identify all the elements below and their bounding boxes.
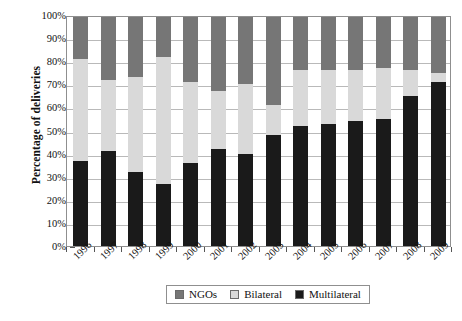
plot-area [66, 16, 451, 247]
x-tick-mark [396, 247, 397, 252]
bar-segment-multilateral [156, 184, 171, 246]
y-tick-label: 60% [22, 103, 66, 114]
bar-group[interactable] [348, 16, 363, 246]
bar-segment-multilateral [101, 151, 116, 246]
y-tick-label: 10% [22, 219, 66, 230]
y-tick-label: 90% [22, 34, 66, 45]
bar-group[interactable] [183, 16, 198, 246]
legend-item[interactable]: Bilateral [230, 289, 282, 300]
x-tick-mark [424, 247, 425, 252]
y-tick-label: 30% [22, 173, 66, 184]
legend-swatch-icon [175, 290, 184, 299]
bar-segment-ngos [128, 16, 143, 77]
bar-segment-bilateral [376, 68, 391, 119]
x-tick-mark [231, 247, 232, 252]
bar-segment-multilateral [403, 96, 418, 246]
gridline [67, 225, 450, 226]
bar-segment-ngos [238, 16, 253, 84]
bar-segment-ngos [211, 16, 226, 91]
bar-group[interactable] [266, 16, 281, 246]
y-tick-label: 0% [22, 242, 66, 253]
y-tick-label: 50% [22, 127, 66, 138]
bar-segment-bilateral [211, 91, 226, 149]
y-tick-label: 80% [22, 57, 66, 68]
bar-group[interactable] [403, 16, 418, 246]
bar-segment-bilateral [321, 70, 336, 123]
y-axis-ticks: 0%10%20%30%40%50%60%70%80%90%100% [12, 0, 66, 321]
bar-group[interactable] [73, 16, 88, 246]
bar-segment-ngos [321, 16, 336, 70]
gridline [67, 86, 450, 87]
legend-label: Bilateral [244, 289, 282, 300]
bar-group[interactable] [211, 16, 226, 246]
bar-segment-ngos [431, 16, 446, 73]
gridline [67, 40, 450, 41]
bar-segment-ngos [376, 16, 391, 68]
gridline [67, 63, 450, 64]
bar-segment-ngos [101, 16, 116, 80]
gridline [67, 156, 450, 157]
legend-swatch-icon [230, 290, 239, 299]
bar-segment-ngos [293, 16, 308, 70]
legend-label: NGOs [189, 289, 217, 300]
gridline [67, 202, 450, 203]
y-tick-label: 40% [22, 150, 66, 161]
bar-group[interactable] [156, 16, 171, 246]
legend-item[interactable]: Multilateral [295, 289, 361, 300]
x-tick-mark [341, 247, 342, 252]
bar-group[interactable] [128, 16, 143, 246]
bar-segment-multilateral [238, 154, 253, 246]
bar-segment-bilateral [293, 70, 308, 125]
gridline [67, 133, 450, 134]
bar-segment-multilateral [321, 124, 336, 246]
bar-segment-bilateral [403, 70, 418, 95]
bar-group[interactable] [321, 16, 336, 246]
bar-segment-ngos [348, 16, 363, 70]
bar-segment-multilateral [73, 161, 88, 246]
bar-segment-multilateral [211, 149, 226, 246]
bar-segment-multilateral [128, 172, 143, 246]
x-tick-mark [66, 247, 67, 252]
bar-segment-multilateral [348, 121, 363, 246]
bar-segment-bilateral [238, 84, 253, 153]
bar-group[interactable] [293, 16, 308, 246]
legend-label: Multilateral [309, 289, 361, 300]
x-tick-mark [204, 247, 205, 252]
x-tick-mark [149, 247, 150, 252]
bar-group[interactable] [376, 16, 391, 246]
bar-group[interactable] [238, 16, 253, 246]
bar-segment-ngos [403, 16, 418, 70]
bar-segment-multilateral [293, 126, 308, 246]
bar-segment-ngos [73, 16, 88, 59]
bar-segment-ngos [266, 16, 281, 105]
gridline [67, 109, 450, 110]
bar-segment-bilateral [183, 82, 198, 163]
legend-swatch-icon [295, 290, 304, 299]
x-tick-mark [369, 247, 370, 252]
y-tick-label: 100% [22, 11, 66, 22]
bar-segment-bilateral [431, 73, 446, 82]
bar-segment-bilateral [101, 80, 116, 152]
legend-item[interactable]: NGOs [175, 289, 217, 300]
y-tick-label: 70% [22, 80, 66, 91]
x-tick-mark [94, 247, 95, 252]
bar-segment-multilateral [431, 82, 446, 246]
bar-group[interactable] [101, 16, 116, 246]
bar-group[interactable] [431, 16, 446, 246]
x-tick-mark [259, 247, 260, 252]
bar-segment-bilateral [156, 57, 171, 184]
chart-legend: NGOsBilateralMultilateral [166, 285, 370, 304]
bar-segment-ngos [156, 16, 171, 57]
y-tick-label: 20% [22, 196, 66, 207]
x-tick-mark [286, 247, 287, 252]
bar-segment-ngos [183, 16, 198, 82]
gridline [67, 179, 450, 180]
x-tick-mark [121, 247, 122, 252]
x-tick-mark [314, 247, 315, 252]
bar-segment-bilateral [73, 59, 88, 161]
x-tick-mark [176, 247, 177, 252]
y-tick-mark [70, 247, 75, 248]
stacked-bar-chart: Percentage of deliveries 0%10%20%30%40%5… [0, 0, 462, 321]
bar-segment-multilateral [376, 119, 391, 246]
x-tick-mark [451, 247, 452, 252]
